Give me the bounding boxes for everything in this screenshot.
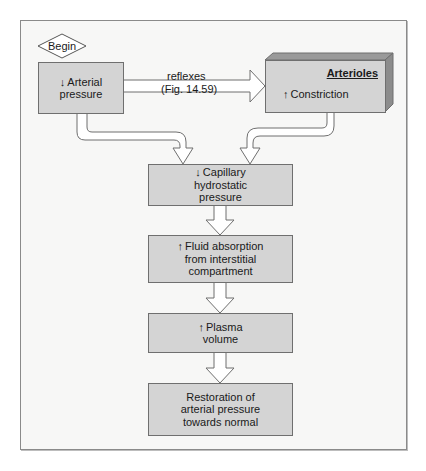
node-fluid-line-1: ↑Fluid absorption xyxy=(178,240,264,253)
arterioles-side-face xyxy=(385,53,393,112)
node-arterial-pressure-line-2: pressure xyxy=(60,88,103,101)
down-arrow-icon: ↓ xyxy=(60,76,66,88)
arterioles-top-face xyxy=(265,53,393,60)
node-fluid-absorption: ↑Fluid absorption from interstitial comp… xyxy=(148,235,293,283)
node-restoration-line-1: Restoration of xyxy=(186,391,254,404)
up-arrow-icon: ↑ xyxy=(198,321,204,333)
arterial-to-capillary-arrow-icon xyxy=(77,113,193,164)
node-capillary-line-3: pressure xyxy=(199,191,242,204)
node-fluid-line-2: from interstitial xyxy=(185,253,257,266)
capillary-to-fluid-arrow-icon xyxy=(206,205,234,235)
fluid-to-plasma-arrow-icon xyxy=(206,282,234,313)
node-arterioles: Arterioles ↑Constriction xyxy=(265,60,386,113)
begin-label: Begin xyxy=(48,40,76,52)
node-fluid-line-3: compartment xyxy=(188,265,252,278)
up-arrow-icon: ↑ xyxy=(283,88,289,100)
node-plasma-line-2: volume xyxy=(203,333,238,346)
node-capillary: ↓Capillary hydrostatic pressure xyxy=(148,164,293,206)
up-arrow-icon: ↑ xyxy=(178,240,184,252)
node-restoration-line-2: arterial pressure xyxy=(181,403,260,416)
down-arrow-icon: ↓ xyxy=(195,166,201,178)
plasma-to-restoration-arrow-icon xyxy=(206,352,234,383)
arterioles-to-capillary-arrow-icon xyxy=(240,112,334,164)
node-capillary-line-2: hydrostatic xyxy=(194,179,247,192)
node-arterioles-line-1: ↑Constriction xyxy=(283,88,349,101)
node-arterial-pressure-line-1: ↓Arterial xyxy=(60,76,102,89)
node-restoration: Restoration of arterial pressure towards… xyxy=(148,383,293,436)
edge-label-reflexes: reflexes xyxy=(167,70,206,83)
edge-label-figure-ref: (Fig. 14.59) xyxy=(161,83,217,96)
node-plasma-line-1: ↑Plasma xyxy=(198,321,242,334)
node-arterial-pressure: ↓Arterial pressure xyxy=(38,62,124,114)
node-capillary-line-1: ↓Capillary xyxy=(195,166,245,179)
diagram-canvas: Begin ↓Arterial pressure reflexes (Fig. … xyxy=(0,0,426,471)
node-plasma-volume: ↑Plasma volume xyxy=(148,313,293,353)
node-restoration-line-3: towards normal xyxy=(183,416,258,429)
node-arterioles-title: Arterioles xyxy=(327,67,378,80)
